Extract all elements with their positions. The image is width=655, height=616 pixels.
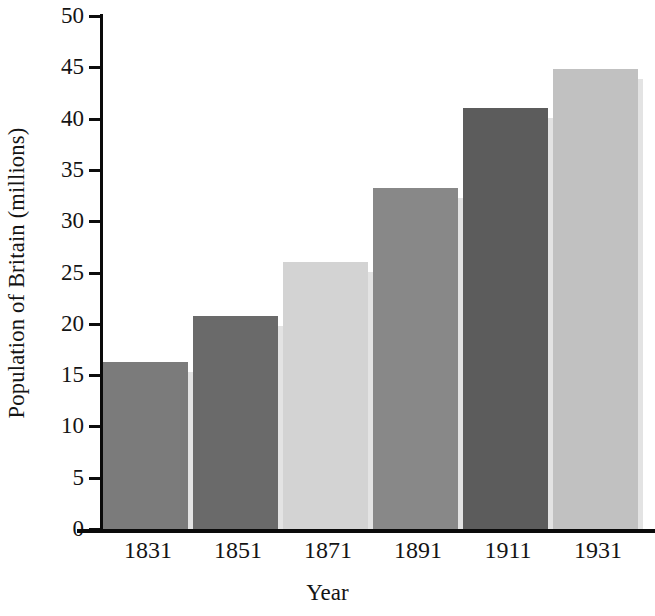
bar-fill <box>463 108 548 529</box>
y-tick-label: 20 <box>38 312 84 335</box>
y-tick-label: 10 <box>38 414 84 437</box>
y-tick-label: 40 <box>38 107 84 130</box>
x-tick-label: 1891 <box>373 537 463 565</box>
bar-fill <box>283 262 368 529</box>
x-axis-title: Year <box>0 580 655 606</box>
plot-area <box>103 0 655 529</box>
y-tick-label: 15 <box>38 363 84 386</box>
y-axis-tick-labels: 05101520253035404550 <box>38 0 84 616</box>
y-tick-label: 25 <box>38 261 84 284</box>
bar-fill <box>103 362 188 529</box>
bar-fill <box>553 69 638 529</box>
x-tick-label: 1831 <box>103 537 193 565</box>
x-axis-tick-labels: 183118511871189119111931 <box>103 537 655 571</box>
x-axis-line <box>77 529 655 533</box>
y-tick-label: 45 <box>38 55 84 78</box>
x-tick-label: 1931 <box>553 537 643 565</box>
y-tick-label: 5 <box>38 466 84 489</box>
bar-fill <box>373 188 458 529</box>
bar-1831[interactable] <box>103 362 193 529</box>
x-tick-label: 1871 <box>283 537 373 565</box>
y-axis-title-label: Population of Britain (millions) <box>4 127 30 418</box>
bar-1851[interactable] <box>193 316 283 529</box>
x-axis-title-label: Year <box>306 580 348 605</box>
bar-1931[interactable] <box>553 69 643 529</box>
x-tick-label: 1911 <box>463 537 553 565</box>
bar-1871[interactable] <box>283 262 373 529</box>
y-tick-label: 50 <box>38 4 84 27</box>
bar-1911[interactable] <box>463 108 553 529</box>
y-axis-title: Population of Britain (millions) <box>0 0 34 545</box>
y-tick-label: 35 <box>38 158 84 181</box>
bar-1891[interactable] <box>373 188 463 529</box>
y-tick-label: 30 <box>38 209 84 232</box>
bar-fill <box>193 316 278 529</box>
x-tick-label: 1851 <box>193 537 283 565</box>
bar-chart: Population of Britain (millions) 0510152… <box>0 0 655 616</box>
